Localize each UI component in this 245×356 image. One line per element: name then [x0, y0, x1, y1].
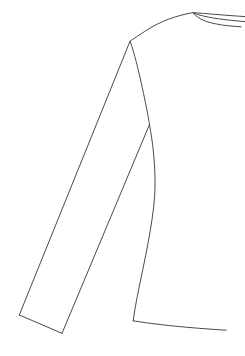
- armhole-seam: Armhole / raglan seam: [130, 42, 149, 125]
- hem-line: Body hem line: [133, 321, 226, 330]
- side-seam: Body side seam: [133, 125, 155, 321]
- shoulder-seam: Shoulder seam: [130, 13, 193, 42]
- sleeve-cuff: Sleeve cuff edge: [19, 315, 62, 333]
- sleeve-top-seam: Sleeve outer seam: [19, 41, 130, 315]
- garment-flat-sketch: Collar top edgeCollar middle edgeCollar …: [0, 0, 245, 356]
- garment-sketch-canvas: Collar top edgeCollar middle edgeCollar …: [0, 0, 245, 356]
- collar-line-top: Collar top edge: [193, 13, 245, 17]
